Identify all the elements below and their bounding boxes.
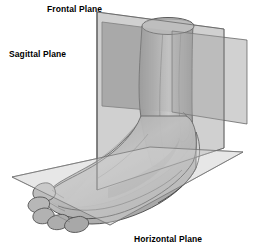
figure-canvas: Frontal Plane Sagittal Plane Horizontal … xyxy=(0,0,253,250)
anatomical-planes-diagram xyxy=(0,0,253,250)
horizontal-plane-label: Horizontal Plane xyxy=(134,234,202,244)
sagittal-plane-label: Sagittal Plane xyxy=(9,49,66,59)
frontal-plane-label: Frontal Plane xyxy=(47,4,102,14)
